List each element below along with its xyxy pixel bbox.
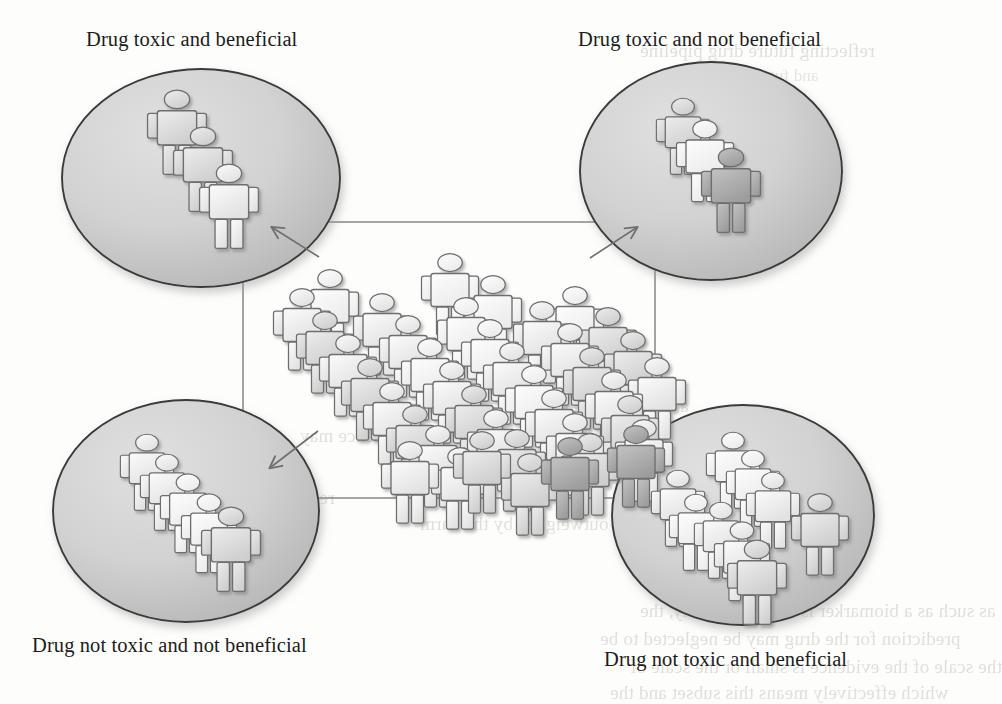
population-figures <box>274 254 686 536</box>
label-bottom-left: Drug not toxic and not beneficial <box>32 634 307 657</box>
label-bottom-right: Drug not toxic and beneficial <box>604 648 847 671</box>
label-top-right: Drug toxic and not beneficial <box>578 28 821 51</box>
label-top-left: Drug toxic and beneficial <box>86 28 297 51</box>
